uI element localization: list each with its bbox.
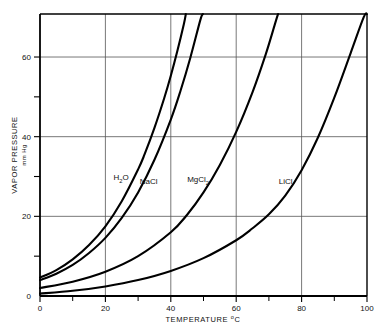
y-tick-label-40: 40 (22, 133, 31, 142)
y-tick-label-20: 20 (22, 212, 31, 221)
y-axis-title-text: VAPOR PRESSURE (10, 116, 19, 193)
x-axis-unit-text: C (235, 315, 241, 324)
svg-text:VAPOR PRESSURE: VAPOR PRESSURE (10, 116, 19, 193)
x-tick-label-40: 40 (166, 304, 175, 313)
x-axis-title-text: TEMPERATURE (165, 315, 228, 324)
y-tick-label-0: 0 (27, 292, 32, 301)
series-label-mgcl2: MgCl2 (187, 175, 209, 185)
chart-canvas: 0204060801000204060 H2ONaClMgCl2LiCl TEM… (0, 0, 385, 332)
series-label-licl: LiCl (279, 177, 293, 186)
x-tick-label-80: 80 (297, 304, 306, 313)
y-tick-label-60: 60 (22, 53, 31, 62)
svg-text:mm Hg: mm Hg (21, 144, 27, 165)
x-tick-label-60: 60 (232, 304, 241, 313)
series-label-nacl: NaCl (140, 177, 158, 186)
x-tick-label-0: 0 (38, 304, 43, 313)
x-axis-title: TEMPERATURE oC (165, 314, 240, 324)
svg-text:TEMPERATURE oC: TEMPERATURE oC (165, 314, 240, 324)
x-tick-label-100: 100 (360, 304, 374, 313)
x-tick-label-20: 20 (101, 304, 110, 313)
vapor-pressure-chart: 0204060801000204060 H2ONaClMgCl2LiCl TEM… (0, 0, 385, 332)
y-axis-unit-text: mm Hg (21, 144, 27, 165)
